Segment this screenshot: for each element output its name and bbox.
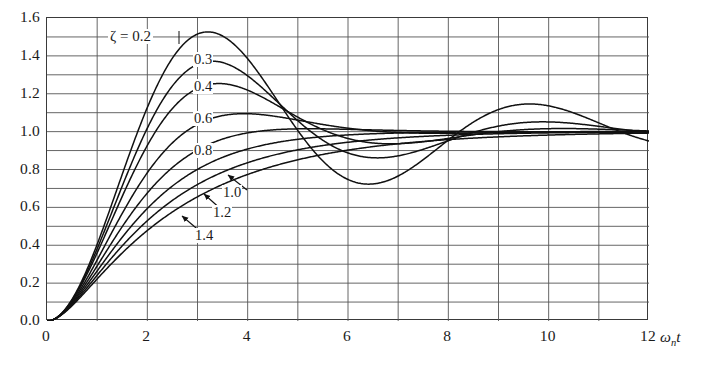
y-tick-0-0: 0.0 — [0, 312, 40, 328]
plot-area — [46, 17, 648, 320]
y-tick-1-2: 1.2 — [0, 85, 40, 101]
curve-label-0-4: 0.4 — [193, 79, 213, 94]
x-tick-4: 4 — [227, 328, 267, 344]
curve-label-1-2: 1.2 — [212, 205, 232, 220]
y-tick-1-0: 1.0 — [0, 123, 40, 139]
y-tick-1-4: 1.4 — [0, 47, 40, 63]
y-tick-0-8: 0.8 — [0, 161, 40, 177]
curve-label-1-4: 1.4 — [194, 228, 214, 243]
x-tick-8: 8 — [427, 328, 467, 344]
x-tick-0: 0 — [26, 328, 66, 344]
x-axis-title: ωnt — [660, 328, 681, 348]
curve-label-0-8: 0.8 — [193, 143, 213, 158]
x-tick-10: 10 — [528, 328, 568, 344]
x-tick-6: 6 — [327, 328, 367, 344]
step-response-figure: 0.00.20.40.60.81.01.21.41.6 024681012 ωn… — [0, 0, 702, 372]
annotation-arrows — [47, 18, 649, 321]
curve-label-0-3: 0.3 — [193, 52, 213, 67]
x-tick-2: 2 — [126, 328, 166, 344]
y-tick-1-6: 1.6 — [0, 9, 40, 25]
curve-label-1-0: 1.0 — [222, 185, 242, 200]
y-tick-0-6: 0.6 — [0, 198, 40, 214]
y-tick-0-4: 0.4 — [0, 236, 40, 252]
omega-symbol: ω — [660, 328, 671, 345]
y-tick-0-2: 0.2 — [0, 274, 40, 290]
zeta-series-title: ζ = 0.2 — [108, 29, 153, 44]
curve-label-0-6: 0.6 — [193, 111, 213, 126]
time-symbol: t — [676, 328, 680, 345]
